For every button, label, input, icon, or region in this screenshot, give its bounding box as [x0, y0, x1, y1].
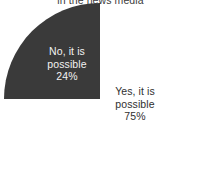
- pie-slice-label-no-line2: possible: [47, 58, 86, 70]
- pie-slice-value-no: 24%: [30, 70, 104, 83]
- pie-slice-label-no: No, it is possible 24%: [30, 45, 104, 83]
- pie-slice-label-no-line1: No, it is: [49, 45, 85, 57]
- pie-slice-label-yes-line2: possible: [115, 98, 154, 110]
- pie-slice-label-yes: Yes, it is possible 75%: [98, 85, 172, 123]
- pie-slice-label-yes-line1: Yes, it is: [115, 85, 155, 97]
- pie-chart-figure: in the news media No, it is possible 24%…: [0, 0, 201, 195]
- pie-slice-value-yes: 75%: [98, 110, 172, 123]
